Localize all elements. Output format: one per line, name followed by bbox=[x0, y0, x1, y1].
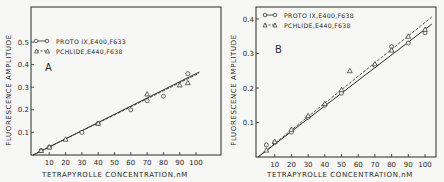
legend-entry-pchlide: PCHLIDE,E440,F638 bbox=[284, 22, 351, 29]
x-axis-label: TETRAPYROLLE CONCENTRATION,nM bbox=[266, 171, 413, 179]
axis-ticks: 1020304050607080901000.10.20.30.40.5 bbox=[18, 39, 203, 168]
circle-marker-icon bbox=[34, 39, 38, 43]
triangle-marker-icon bbox=[46, 49, 50, 53]
y-tick-label: 0.3 bbox=[243, 50, 254, 58]
x-tick-label: 10 bbox=[270, 161, 279, 169]
circle-marker-icon bbox=[45, 39, 49, 43]
x-tick-label: 80 bbox=[387, 161, 396, 169]
circle-marker-icon bbox=[273, 13, 277, 17]
legend-entry-proto: PROTO IX,E400,F633 bbox=[56, 38, 126, 45]
triangle-marker-icon bbox=[306, 113, 311, 117]
y-axis-label: FLUORESCENCE AMPLITUDE bbox=[5, 34, 13, 145]
legend-entry-pchlide: PCHLIDE,E440,F638 bbox=[56, 48, 123, 55]
circle-marker-icon bbox=[161, 94, 165, 98]
x-tick-label: 70 bbox=[143, 159, 152, 167]
x-tick-label: 90 bbox=[175, 159, 184, 167]
legend: PROTO IX,E400,F638 PCHLIDE,E440,F638 bbox=[263, 12, 354, 29]
x-tick-label: 60 bbox=[126, 159, 135, 167]
panel-b: 1020304050607080901000.10.20.30.4 B PROT… bbox=[230, 7, 436, 179]
panel-label: A bbox=[45, 62, 52, 73]
x-tick-label: 40 bbox=[320, 161, 329, 169]
x-tick-label: 10 bbox=[45, 159, 54, 167]
x-tick-label: 100 bbox=[189, 159, 202, 167]
circle-marker-icon bbox=[129, 108, 133, 112]
fit-line bbox=[33, 73, 199, 155]
plot-frame bbox=[31, 7, 221, 155]
x-tick-label: 50 bbox=[110, 159, 119, 167]
axis-ticks: 1020304050607080901000.10.20.30.4 bbox=[243, 16, 432, 170]
triangle-marker-icon bbox=[347, 68, 352, 72]
circle-marker-icon bbox=[406, 41, 410, 45]
y-tick-label: 0.4 bbox=[18, 61, 30, 69]
x-tick-label: 80 bbox=[159, 159, 168, 167]
triangle-marker-icon bbox=[145, 92, 150, 96]
x-tick-label: 90 bbox=[404, 161, 413, 169]
x-tick-label: 50 bbox=[337, 161, 346, 169]
x-tick-label: 30 bbox=[77, 159, 86, 167]
legend-entry-proto: PROTO IX,E400,F638 bbox=[284, 12, 354, 19]
plot-frame bbox=[256, 7, 436, 157]
y-tick-label: 0.4 bbox=[243, 16, 255, 24]
figure-two-panel-chart: 1020304050607080901000.10.20.30.40.5 A P… bbox=[0, 0, 444, 182]
triangle-marker-icon bbox=[289, 127, 294, 131]
x-tick-label: 20 bbox=[61, 159, 70, 167]
y-tick-label: 0.2 bbox=[243, 85, 254, 93]
x-tick-label: 30 bbox=[304, 161, 313, 169]
x-tick-label: 20 bbox=[287, 161, 296, 169]
panel-a: 1020304050607080901000.10.20.30.40.5 A P… bbox=[5, 7, 221, 179]
fit-lines bbox=[33, 72, 199, 155]
circle-marker-icon bbox=[80, 130, 84, 134]
circle-marker-icon bbox=[263, 13, 267, 17]
triangle-marker-icon bbox=[185, 80, 190, 84]
triangle-marker-icon bbox=[373, 61, 378, 65]
x-tick-label: 100 bbox=[418, 161, 431, 169]
legend: PROTO IX,E400,F633 PCHLIDE,E440,F638 bbox=[34, 38, 126, 55]
circle-marker-icon bbox=[145, 99, 149, 103]
y-axis-label: FLUORESCENCE AMPLITUDE bbox=[230, 34, 238, 145]
y-tick-label: 0.1 bbox=[18, 129, 29, 137]
x-tick-label: 70 bbox=[370, 161, 379, 169]
x-tick-label: 60 bbox=[354, 161, 363, 169]
circle-marker-icon bbox=[186, 72, 190, 76]
x-axis-label: TETRAPYROLLE CONCENTRATION,nM bbox=[41, 171, 188, 179]
y-tick-label: 0.5 bbox=[18, 39, 29, 47]
circle-marker-icon bbox=[264, 143, 268, 147]
y-tick-label: 0.1 bbox=[243, 119, 254, 127]
x-tick-label: 40 bbox=[94, 159, 103, 167]
y-tick-label: 0.3 bbox=[18, 84, 29, 92]
y-tick-label: 0.2 bbox=[18, 106, 29, 114]
triangle-marker-icon bbox=[177, 83, 182, 87]
fit-line bbox=[258, 24, 432, 157]
panel-label: B bbox=[275, 44, 282, 55]
